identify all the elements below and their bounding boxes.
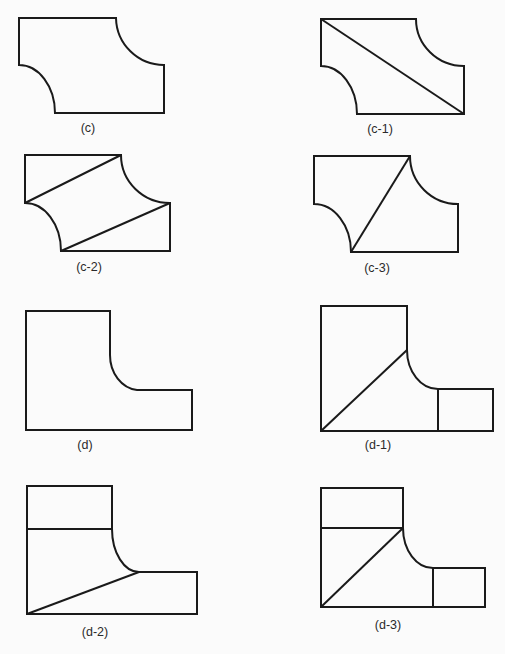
diagonal-line-upper <box>25 155 121 203</box>
diagonal-line <box>321 19 464 114</box>
figure-c <box>19 18 164 113</box>
figure-label-c-2: (c-2) <box>76 260 102 274</box>
figure-label-c-3: (c-3) <box>364 261 390 275</box>
diagonal-line <box>351 156 410 252</box>
figure-d-3 <box>321 488 485 607</box>
figure-d <box>26 311 192 430</box>
diagonal-line <box>321 350 407 431</box>
figure-c-3 <box>314 156 458 252</box>
figure-d-1 <box>321 306 493 431</box>
figure-label-d-3: (d-3) <box>375 618 401 632</box>
figure-label-d-1: (d-1) <box>365 438 391 452</box>
diagonal-line <box>321 528 403 607</box>
figure-c-2 <box>25 155 170 251</box>
figure-d-2 <box>27 486 197 614</box>
diagonal-line-lower <box>61 203 170 251</box>
diagram-canvas <box>0 0 505 654</box>
figure-c-1 <box>321 19 464 114</box>
figure-label-c-1: (c-1) <box>367 122 393 136</box>
figure-label-c: (c) <box>81 121 96 135</box>
figure-label-d: (d) <box>77 438 92 452</box>
figure-label-d-2: (d-2) <box>82 625 108 639</box>
diagonal-line <box>27 572 139 614</box>
